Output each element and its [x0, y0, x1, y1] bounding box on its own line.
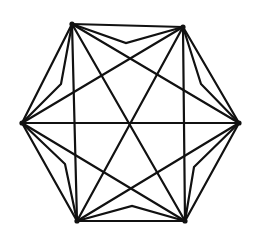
vertex-top-right: [180, 24, 185, 29]
vertex-bottom-right: [182, 218, 187, 223]
edge-left-bottom-right: [22, 123, 185, 221]
edge-top-left-right: [72, 24, 239, 123]
graph-diagram: [0, 0, 261, 239]
vertex-bottom-left: [74, 218, 79, 223]
edge-right-bottom-left: [77, 123, 239, 221]
vertex-top-left: [69, 21, 74, 26]
edges-group: [22, 24, 239, 221]
edge-top-left-top-right: [72, 24, 183, 27]
edge-bottom-left-left: [22, 123, 77, 221]
edge-top-right-right: [183, 27, 239, 123]
bent-edge-bottom-right-bottom-left: [77, 206, 185, 221]
vertex-left: [19, 120, 24, 125]
vertex-right: [236, 120, 241, 125]
